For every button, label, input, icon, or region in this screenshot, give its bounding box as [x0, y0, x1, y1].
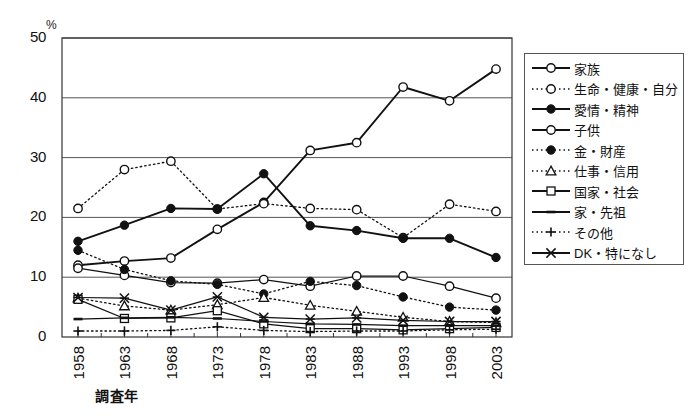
legend-item-6[interactable]: 国家・社会	[530, 181, 677, 202]
legend-item-5[interactable]: 仕事・信用	[530, 161, 677, 182]
legend-item-1[interactable]: 生命・健康・自分	[530, 79, 677, 100]
legend-label: その他	[574, 223, 613, 242]
legend-label: 子供	[574, 120, 600, 139]
series-2	[74, 170, 500, 262]
legend-label: DK・特になし	[574, 243, 657, 262]
legend-item-3[interactable]: 子供	[530, 120, 677, 141]
series-4	[74, 246, 500, 314]
legend-marker-icon	[530, 59, 572, 77]
legend-item-2[interactable]: 愛情・精神	[530, 99, 677, 120]
legend-item-7[interactable]: 家・先祖	[530, 202, 677, 223]
legend-item-4[interactable]: 金・財産	[530, 140, 677, 161]
legend-marker-icon	[530, 100, 572, 118]
legend-marker-icon	[530, 80, 572, 98]
legend-marker-icon	[530, 203, 572, 221]
series-3	[74, 264, 500, 302]
grid-lines	[62, 38, 512, 277]
legend-label: 家・先祖	[574, 202, 626, 221]
chart-legend: 家族生命・健康・自分愛情・精神子供金・財産仕事・信用国家・社会家・先祖その他DK…	[524, 53, 684, 265]
plot-border	[62, 38, 512, 337]
legend-marker-icon	[530, 244, 572, 262]
series-layer	[73, 65, 501, 336]
legend-label: 家族	[574, 59, 600, 78]
legend-label: 金・財産	[574, 141, 626, 160]
legend-item-9[interactable]: DK・特になし	[530, 243, 677, 264]
legend-item-8[interactable]: その他	[530, 222, 677, 243]
legend-marker-icon	[530, 162, 572, 180]
series-9	[73, 292, 500, 326]
legend-marker-icon	[530, 223, 572, 241]
legend-label: 国家・社会	[574, 182, 639, 201]
legend-item-0[interactable]: 家族	[530, 58, 677, 79]
legend-marker-icon	[530, 121, 572, 139]
chart-container: % 50403020100 19581963196819731978198319…	[0, 0, 692, 419]
legend-marker-icon	[530, 141, 572, 159]
legend-label: 生命・健康・自分	[574, 79, 678, 98]
axis-ticks	[78, 332, 496, 337]
legend-label: 仕事・信用	[574, 161, 639, 180]
legend-marker-icon	[530, 182, 572, 200]
legend-label: 愛情・精神	[574, 100, 639, 119]
